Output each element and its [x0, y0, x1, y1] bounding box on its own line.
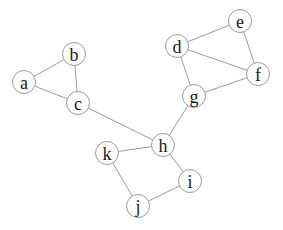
node-k-label: k	[103, 144, 112, 164]
node-g-label: g	[190, 87, 199, 107]
node-h-label: h	[159, 136, 168, 156]
node-j: j	[127, 195, 150, 218]
node-j-label: j	[134, 197, 140, 217]
node-d: d	[166, 35, 189, 58]
node-a-label: a	[20, 73, 28, 93]
node-a: a	[13, 71, 36, 94]
node-f: f	[247, 63, 270, 86]
graph-canvas: abcdefghijk	[0, 0, 283, 230]
graph-diagram: abcdefghijk	[0, 0, 283, 230]
node-g: g	[183, 85, 206, 108]
node-e: e	[229, 10, 252, 33]
node-i-label: i	[187, 172, 192, 192]
node-e-label: e	[236, 12, 244, 32]
node-f-label: f	[255, 65, 261, 85]
node-d-label: d	[173, 37, 182, 57]
node-c: c	[67, 92, 90, 115]
edge-d-f	[177, 46, 258, 74]
node-i: i	[179, 170, 202, 193]
node-h: h	[152, 134, 175, 157]
nodes-layer: abcdefghijk	[13, 10, 270, 218]
node-k: k	[96, 142, 119, 165]
node-b-label: b	[70, 45, 79, 65]
edges-layer	[24, 21, 258, 206]
node-c-label: c	[74, 94, 82, 114]
node-b: b	[63, 43, 86, 66]
edge-c-h	[78, 103, 163, 145]
